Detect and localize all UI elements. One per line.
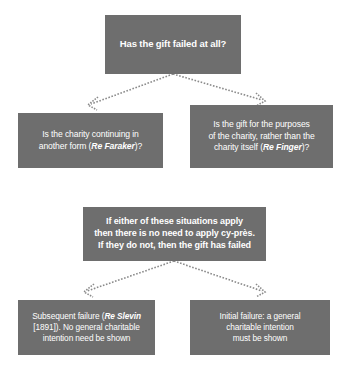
node-initial-line-3: must be shown	[194, 333, 326, 344]
case-citation-re-slevin: Re Slevin	[104, 311, 140, 321]
node-root-text: Has the gift failed at all?	[105, 38, 241, 51]
node-finger-line-3-suffix: )?	[302, 142, 309, 152]
node-root-line-1: Has the gift failed at all?	[109, 38, 237, 51]
node-rule-line-3: If they do not, then the gift has failed	[87, 240, 262, 252]
node-rule-line-1: If either of these situations apply	[87, 216, 262, 228]
node-initial-line-1: Initial failure: a general	[194, 311, 326, 322]
diagram-canvas: Has the gift failed at all? Is the chari…	[0, 0, 345, 370]
node-finger-line-2: of the charity, rather than the	[194, 131, 329, 142]
node-faraker-line-1: Is the charity continuing in	[22, 129, 159, 140]
arrowhead-subsequent	[84, 284, 94, 297]
node-faraker-line-2-suffix: )?	[135, 141, 142, 151]
node-subsequent-text: Subsequent failure (Re Slevin [1891]). N…	[18, 311, 155, 344]
node-rule-statement: If either of these situations apply then…	[83, 207, 266, 261]
edge-rule-to-initial	[174, 261, 262, 291]
node-rule-text: If either of these situations apply then…	[83, 216, 266, 252]
edge-root-to-faraker	[91, 74, 173, 104]
node-subsequent-line-1-prefix: Subsequent failure (	[32, 311, 104, 321]
node-root-question: Has the gift failed at all?	[105, 15, 241, 74]
node-rule-line-2: then there is no need to apply cy-près.	[87, 228, 262, 240]
node-subsequent-line-2: [1891]). No general charitable	[22, 322, 151, 333]
node-subsequent-line-3: intention need be shown	[22, 333, 151, 344]
node-faraker-question: Is the charity continuing in another for…	[18, 113, 163, 168]
node-faraker-text: Is the charity continuing in another for…	[18, 129, 163, 152]
arrowhead-faraker	[88, 97, 98, 110]
node-faraker-line-2: another form (Re Faraker)?	[22, 141, 159, 152]
node-initial-text: Initial failure: a general charitable in…	[190, 311, 330, 344]
node-initial-line-2: charitable intention	[194, 322, 326, 333]
case-citation-re-finger: Re Finger	[263, 142, 302, 152]
node-initial-failure-outcome: Initial failure: a general charitable in…	[190, 300, 330, 355]
node-finger-line-1: Is the gift for the purposes	[194, 119, 329, 130]
edge-rule-to-subsequent	[87, 261, 174, 291]
node-finger-line-3: charity itself (Re Finger)?	[194, 142, 329, 153]
node-finger-text: Is the gift for the purposes of the char…	[190, 119, 333, 153]
node-subsequent-failure-outcome: Subsequent failure (Re Slevin [1891]). N…	[18, 300, 155, 355]
node-faraker-line-2-prefix: another form (	[39, 141, 92, 151]
node-finger-question: Is the gift for the purposes of the char…	[190, 105, 333, 168]
case-citation-re-faraker: Re Faraker	[91, 141, 134, 151]
node-finger-line-3-prefix: charity itself (	[214, 142, 263, 152]
arrowhead-initial	[256, 284, 265, 297]
edge-root-to-finger	[173, 74, 262, 100]
node-subsequent-line-1: Subsequent failure (Re Slevin	[22, 311, 151, 322]
